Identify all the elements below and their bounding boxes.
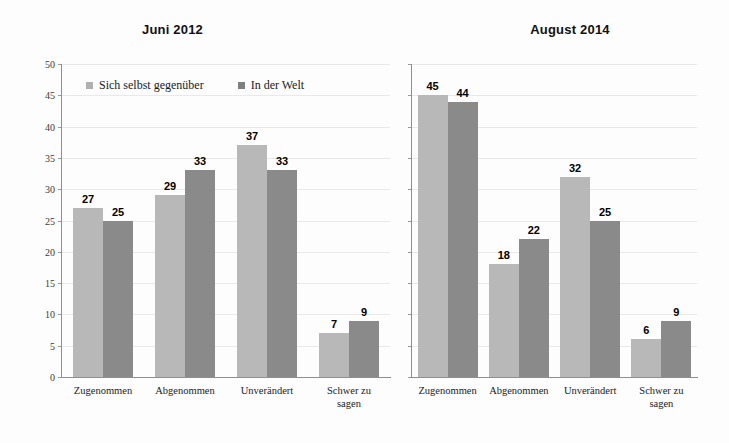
bar: 25 bbox=[590, 221, 620, 378]
bar-value-label: 44 bbox=[457, 87, 469, 99]
bar: 29 bbox=[155, 195, 185, 377]
bar: 9 bbox=[349, 321, 379, 377]
bar-value-label: 25 bbox=[112, 206, 124, 218]
legend-item: In der Welt bbox=[238, 78, 304, 93]
legend-swatch-icon bbox=[238, 82, 245, 89]
bar: 32 bbox=[560, 177, 590, 377]
legend-item: Sich selbst gegenüber bbox=[86, 78, 204, 93]
x-axis-line bbox=[411, 377, 698, 378]
bar-group: 4544 bbox=[412, 64, 483, 377]
bar: 33 bbox=[267, 170, 297, 377]
bar-group: 3733 bbox=[226, 64, 308, 377]
y-axis-label: 15 bbox=[45, 278, 55, 289]
bar: 45 bbox=[418, 95, 448, 377]
bar-value-label: 9 bbox=[361, 306, 367, 318]
bar: 6 bbox=[631, 339, 661, 377]
bar-value-label: 37 bbox=[246, 130, 258, 142]
bar-value-label: 33 bbox=[276, 155, 288, 167]
bar: 9 bbox=[661, 321, 691, 377]
bar: 27 bbox=[73, 208, 103, 377]
bar: 18 bbox=[489, 264, 519, 377]
y-axis-label: 10 bbox=[45, 309, 55, 320]
category-label: Unverändert bbox=[226, 384, 308, 410]
y-axis-label: 35 bbox=[45, 152, 55, 163]
x-axis-line bbox=[61, 377, 391, 378]
plot-area-left: 0510152025303540455027252933373379 bbox=[62, 64, 390, 377]
chart-title-right: August 2014 bbox=[403, 22, 729, 37]
bar: 25 bbox=[103, 221, 133, 378]
chart-panel-juni-2012: Juni 2012 051015202530354045502725293337… bbox=[0, 0, 395, 443]
y-axis-label: 30 bbox=[45, 184, 55, 195]
bar-value-label: 6 bbox=[643, 324, 649, 336]
bar-value-label: 29 bbox=[164, 180, 176, 192]
bar-groups: 27252933373379 bbox=[62, 64, 390, 377]
y-axis-label: 50 bbox=[45, 59, 55, 70]
bar-value-label: 25 bbox=[599, 206, 611, 218]
category-label: Schwer zu sagen bbox=[308, 384, 390, 410]
category-label: Unverändert bbox=[555, 384, 626, 410]
chart-panel-august-2014: August 2014 45441822322569 bbox=[395, 0, 729, 443]
bar-group: 2725 bbox=[62, 64, 144, 377]
y-axis-label: 25 bbox=[45, 215, 55, 226]
bar-value-label: 33 bbox=[194, 155, 206, 167]
bar-value-label: 22 bbox=[528, 224, 540, 236]
bar-value-label: 27 bbox=[82, 193, 94, 205]
chart-page: Juni 2012 051015202530354045502725293337… bbox=[0, 0, 729, 443]
bar-groups: 45441822322569 bbox=[412, 64, 697, 377]
chart-title-left: Juni 2012 bbox=[0, 22, 370, 37]
bar-group: 2933 bbox=[144, 64, 226, 377]
y-axis-label: 20 bbox=[45, 246, 55, 257]
bar: 33 bbox=[185, 170, 215, 377]
y-axis-label: 0 bbox=[50, 372, 55, 383]
bar-group: 79 bbox=[308, 64, 390, 377]
chart-legend: Sich selbst gegenüberIn der Welt bbox=[86, 78, 304, 93]
category-label: Zugenommen bbox=[412, 384, 483, 410]
bar-value-label: 18 bbox=[498, 249, 510, 261]
bar-group: 1822 bbox=[483, 64, 554, 377]
bar-value-label: 9 bbox=[673, 306, 679, 318]
bar-value-label: 7 bbox=[331, 318, 337, 330]
y-axis-label: 45 bbox=[45, 90, 55, 101]
category-labels-left: ZugenommenAbgenommenUnverändertSchwer zu… bbox=[62, 384, 390, 410]
category-label: Schwer zu sagen bbox=[626, 384, 697, 410]
category-label: Abgenommen bbox=[144, 384, 226, 410]
bar: 7 bbox=[319, 333, 349, 377]
bar: 22 bbox=[519, 239, 549, 377]
bar: 37 bbox=[237, 145, 267, 377]
plot-area-right: 45441822322569 bbox=[412, 64, 697, 377]
y-axis-label: 5 bbox=[50, 340, 55, 351]
legend-label: Sich selbst gegenüber bbox=[99, 78, 204, 93]
category-label: Zugenommen bbox=[62, 384, 144, 410]
category-label: Abgenommen bbox=[483, 384, 554, 410]
y-axis-label: 40 bbox=[45, 121, 55, 132]
bar-group: 69 bbox=[626, 64, 697, 377]
bar: 44 bbox=[448, 102, 478, 377]
bar-group: 3225 bbox=[555, 64, 626, 377]
legend-label: In der Welt bbox=[251, 78, 304, 93]
bar-value-label: 32 bbox=[569, 162, 581, 174]
legend-swatch-icon bbox=[86, 82, 93, 89]
category-labels-right: ZugenommenAbgenommenUnverändertSchwer zu… bbox=[412, 384, 697, 410]
bar-value-label: 45 bbox=[427, 80, 439, 92]
